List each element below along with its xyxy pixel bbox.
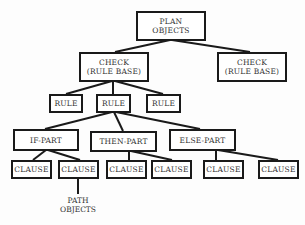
node-clause-6: CLAUSE (258, 160, 299, 179)
node-check-rule-base-right: CHECK (RULE BASE) (217, 52, 287, 82)
node-if-part: IF-PART (13, 129, 79, 151)
node-rule-1: RULE (49, 94, 83, 113)
diagram-canvas: PLAN OBJECTS CHECK (RULE BASE) CHECK (RU… (0, 0, 305, 225)
node-else-part: ELSE-PART (169, 129, 236, 151)
node-clause-3: CLAUSE (106, 160, 147, 179)
node-clause-2: CLAUSE (58, 160, 99, 179)
node-check-rule-base-left: CHECK (RULE BASE) (79, 52, 149, 82)
label-path-objects: PATH OBJECTS (53, 196, 103, 214)
node-clause-4: CLAUSE (151, 160, 192, 179)
node-plan-objects: PLAN OBJECTS (136, 11, 206, 41)
node-clause-5: CLAUSE (203, 160, 244, 179)
node-rule-2: RULE (96, 94, 131, 113)
node-clause-1: CLAUSE (11, 160, 52, 179)
node-then-part: THEN-PART (90, 131, 157, 152)
node-rule-3: RULE (146, 94, 181, 113)
